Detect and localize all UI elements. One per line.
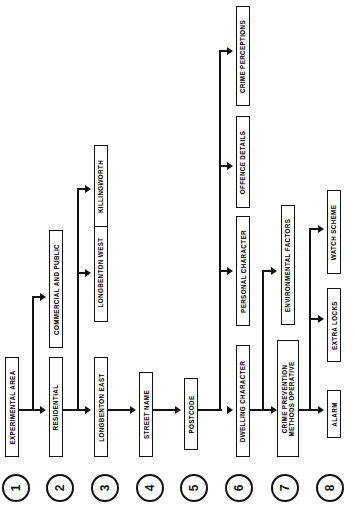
arrowhead-to-dwelling-character	[227, 406, 233, 414]
level-marker-label: 3	[99, 485, 111, 492]
arrowhead-to-longbenton-east	[85, 406, 91, 414]
connector-l6-riser	[262, 270, 264, 410]
level-marker-1: 1	[2, 474, 30, 502]
node-label: EXPERIMENTAL AREA	[9, 370, 16, 444]
level-marker-label: 7	[279, 485, 291, 492]
arrowhead-to-commercial	[40, 293, 46, 301]
arrowhead-to-killingworth	[85, 185, 91, 193]
arrowhead-to-crime-perceptions	[227, 47, 233, 55]
level-marker-label: 6	[233, 485, 245, 492]
node-offence-details: OFFENCE DETAILS	[236, 116, 250, 208]
node-label: EXTRA LOCKS	[331, 301, 338, 350]
arrowhead-to-alarm	[318, 406, 324, 414]
level-marker-8: 8	[316, 474, 344, 502]
node-alarm: ALARM	[327, 390, 341, 438]
node-label: ALARM	[331, 402, 338, 426]
level-marker-label: 8	[324, 485, 336, 492]
connector-l1-riser	[32, 296, 34, 410]
arrowhead-to-watch-scheme	[318, 225, 324, 233]
level-marker-7: 7	[271, 474, 299, 502]
node-label: WATCH SCHEME	[331, 204, 338, 260]
level-marker-2: 2	[46, 474, 74, 502]
diagram-canvas: EXPERIMENTAL AREA RESIDENTIAL COMMERCIAL…	[0, 0, 355, 510]
node-label: ENVIRONMENTAL FACTORS	[285, 218, 292, 311]
level-marker-label: 4	[144, 485, 156, 492]
connector-l4-out	[153, 409, 176, 411]
node-label: LONGBENTON WEST	[98, 237, 105, 307]
node-residential: RESIDENTIAL	[49, 357, 63, 457]
node-label: DWELLING CHARACTER	[240, 360, 247, 442]
node-killingworth: KILLINGWORTH	[94, 145, 108, 227]
node-watch-scheme: WATCH SCHEME	[327, 190, 341, 274]
level-marker-label: 2	[54, 485, 66, 492]
node-label: PERSONAL CHARACTER	[240, 230, 247, 313]
node-environmental-factors: ENVIRONMENTAL FACTORS	[281, 205, 295, 325]
node-label: LONGBENTON EAST	[98, 373, 105, 441]
arrowhead-to-street-name	[130, 406, 136, 414]
node-label: OFFENCE DETAILS	[240, 130, 247, 194]
node-label: CRIME PREVENTION METHODS OPERATIVE	[281, 361, 295, 436]
level-marker-3: 3	[91, 474, 119, 502]
node-label: KILLINGWORTH	[98, 159, 105, 212]
arrowhead-to-postcode	[175, 406, 181, 414]
node-street-name: STREET NAME	[139, 372, 153, 457]
node-crime-perceptions: CRIME PERCEPTIONS	[236, 6, 250, 106]
node-extra-locks: EXTRA LOCKS	[327, 288, 341, 362]
connector-l5-riser	[219, 50, 221, 410]
node-longbenton-west: LONGBENTON WEST	[94, 222, 108, 322]
connector-l2-out	[63, 409, 86, 411]
node-experimental-area: EXPERIMENTAL AREA	[5, 357, 19, 457]
node-commercial-and-public: COMMERCIAL AND PUBLIC	[49, 230, 63, 348]
connector-l1-out	[19, 409, 41, 411]
node-label: STREET NAME	[143, 390, 150, 439]
level-marker-4: 4	[136, 474, 164, 502]
connector-l3-out	[108, 409, 131, 411]
node-crime-prevention-methods-operative: CRIME PREVENTION METHODS OPERATIVE	[277, 340, 299, 457]
arrowhead-to-extra-locks	[318, 315, 324, 323]
node-label: CRIME PERCEPTIONS	[240, 19, 247, 92]
node-postcode: POSTCODE	[184, 378, 198, 450]
arrowhead-to-residential	[40, 406, 46, 414]
node-longbenton-east: LONGBENTON EAST	[94, 357, 108, 457]
arrowhead-to-offence-details	[227, 162, 233, 170]
level-marker-5: 5	[180, 474, 208, 502]
node-label: RESIDENTIAL	[53, 384, 60, 430]
connector-l2-riser	[77, 188, 79, 410]
level-marker-6: 6	[225, 474, 253, 502]
level-marker-label: 5	[188, 485, 200, 492]
node-dwelling-character: DWELLING CHARACTER	[236, 345, 250, 457]
arrowhead-to-longbenton-west	[85, 269, 91, 277]
node-label: COMMERCIAL AND PUBLIC	[53, 244, 60, 335]
node-personal-character: PERSONAL CHARACTER	[236, 216, 250, 326]
arrowhead-to-personal-character	[227, 267, 233, 275]
level-marker-label: 1	[10, 485, 22, 492]
arrowhead-to-environmental-factors	[271, 267, 277, 275]
node-label: POSTCODE	[188, 395, 195, 433]
